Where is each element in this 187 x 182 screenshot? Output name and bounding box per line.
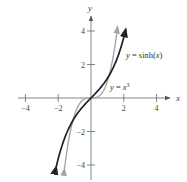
x-tick-label: −2 xyxy=(54,104,63,113)
x-tick-label: −4 xyxy=(21,104,30,113)
y-tick-label: 2 xyxy=(81,61,85,70)
x-axis-label: x xyxy=(175,93,180,103)
y-tick-label: −4 xyxy=(76,161,85,170)
y-tick-label: 4 xyxy=(81,27,85,36)
x-tick-label: 4 xyxy=(155,104,159,113)
x-ticks: −4−224 xyxy=(21,94,158,113)
cube-label: y = x3 xyxy=(109,82,130,92)
x-tick-label: 2 xyxy=(122,104,126,113)
y-axis-label: y xyxy=(87,3,92,13)
chart: −4−224 42−2−4 x y y = sinh(x) y = x3 xyxy=(0,0,187,182)
y-tick-label: −2 xyxy=(76,128,85,137)
sinh-label: y = sinh(x) xyxy=(125,50,163,60)
